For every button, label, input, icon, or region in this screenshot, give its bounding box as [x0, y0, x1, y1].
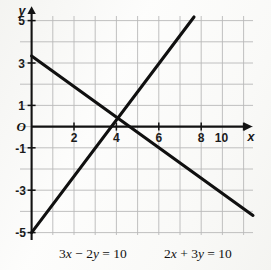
eq-right-equals: = [207, 246, 215, 261]
x-tick-label: 6 [155, 131, 162, 145]
y-tick-label: -1 [15, 142, 26, 156]
x-tick-labels: 2 4 6 8 10 [71, 131, 229, 145]
x-axis [32, 122, 253, 130]
figure-container: 2 4 6 8 10 5 3 1 -1 -3 -5 y x O 3x − 2y … [0, 0, 271, 270]
y-tick-label: 3 [18, 57, 25, 71]
equation-label-right: 2x + 3y = 10 [164, 246, 232, 262]
eq-left-equals: = [102, 246, 110, 261]
eq-left-operator: − [75, 246, 83, 261]
equation-label-left: 3x − 2y = 10 [59, 246, 127, 262]
y-tick-label: 1 [18, 99, 25, 113]
x-tick-label: 4 [113, 131, 120, 145]
eq-right-operator: + [180, 246, 188, 261]
eq-left-coef-y: 2 [86, 246, 93, 261]
eq-left-rhs: 10 [113, 246, 127, 261]
eq-right-rhs: 10 [218, 246, 232, 261]
x-tick-label: 2 [71, 131, 78, 145]
eq-right-coef-x: 2 [164, 246, 171, 261]
eq-left-coef-x: 3 [59, 246, 66, 261]
x-tick-label: 8 [198, 131, 205, 145]
y-axis [27, 6, 35, 240]
line-series-0 [32, 17, 194, 233]
y-tick-label: -5 [15, 226, 26, 240]
x-axis-label: x [247, 130, 256, 144]
x-tick-label: 10 [215, 131, 229, 145]
y-axis-label: y [18, 4, 27, 18]
eq-right-coef-y: 3 [191, 246, 198, 261]
coordinate-graph: 2 4 6 8 10 5 3 1 -1 -3 -5 y x O [0, 0, 271, 270]
y-tick-label: -3 [15, 184, 26, 198]
origin-label: O [17, 119, 27, 134]
